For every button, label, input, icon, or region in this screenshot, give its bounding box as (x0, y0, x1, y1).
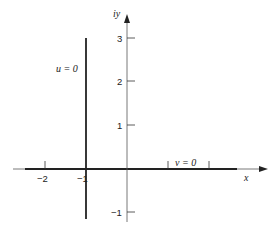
v-zero-label: v = 0 (175, 157, 196, 168)
y-tick-label-3: 3 (117, 33, 122, 44)
y-axis-label: iy (113, 8, 121, 19)
x-tick-label-neg2: −2 (37, 173, 48, 184)
y-tick-label-2: 2 (117, 76, 122, 87)
y-axis-arrow-icon (124, 14, 130, 23)
u-zero-label: u = 0 (56, 63, 78, 74)
complex-plane-diagram: iy x 3 2 1 −1 −2 −1 u = 0 v = 0 (0, 0, 277, 228)
x-axis-arrow-icon (259, 166, 268, 172)
x-tick-label-neg1: −1 (77, 173, 88, 184)
y-tick-label-1: 1 (117, 120, 122, 131)
y-tick-label-neg1: −1 (111, 207, 122, 218)
x-axis-label: x (243, 172, 249, 183)
